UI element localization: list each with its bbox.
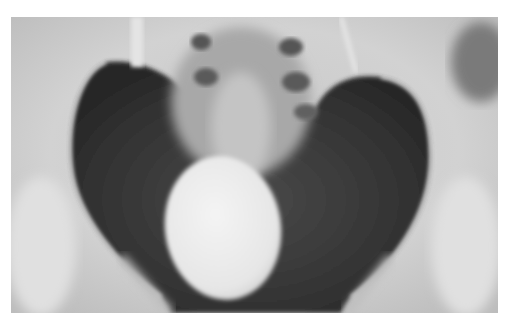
xray-image [11, 17, 498, 313]
sacral-foramen [279, 38, 303, 56]
sacral-foramen [282, 72, 310, 92]
left-sacroiliac-line [131, 17, 143, 67]
sacral-foramen [294, 104, 318, 120]
sacral-foramen [194, 68, 218, 86]
xray-svg [11, 17, 498, 313]
sacral-foramen [191, 34, 211, 50]
